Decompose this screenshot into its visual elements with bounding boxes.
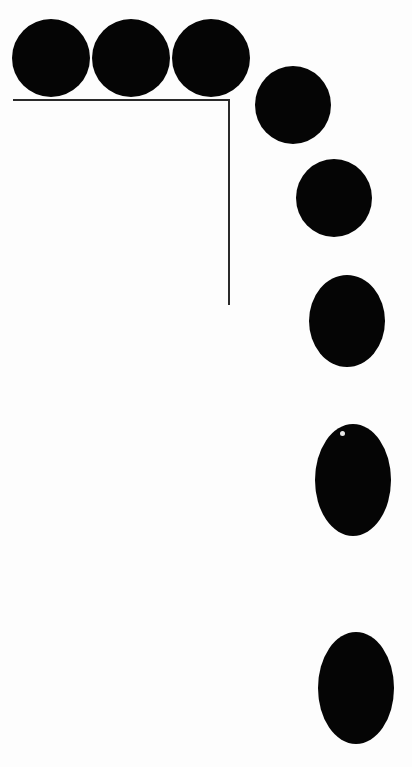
ball-1 (12, 19, 90, 97)
ball-2 (92, 19, 170, 97)
ball-5 (296, 159, 372, 237)
ball-6 (309, 275, 385, 367)
ball-4 (255, 66, 331, 144)
ball-8 (318, 632, 394, 744)
ledge-top-line (13, 99, 230, 101)
ball-3 (172, 19, 250, 97)
ball-7 (315, 424, 391, 536)
falling-balls-diagram (0, 0, 412, 767)
highlight-dot (340, 431, 345, 436)
ledge-wall-line (228, 100, 230, 305)
